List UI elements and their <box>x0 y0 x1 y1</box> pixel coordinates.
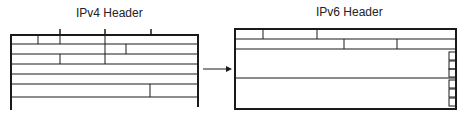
header-comparison-diagram <box>0 0 465 117</box>
source-address-blocks <box>449 52 456 77</box>
destination-address-blocks <box>449 80 456 106</box>
ipv6-header-diagram <box>235 29 456 109</box>
ipv4-header-diagram <box>11 29 198 110</box>
arrow-icon <box>203 66 232 72</box>
